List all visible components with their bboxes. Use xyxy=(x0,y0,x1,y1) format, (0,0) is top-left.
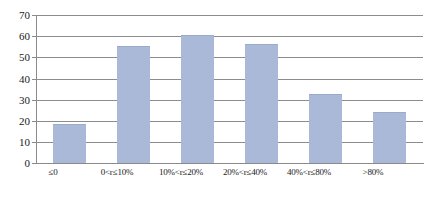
y-axis-label-70: 70 xyxy=(0,10,30,21)
x-axis-label-3: 20%<r≤40% xyxy=(210,168,280,178)
bar-0[interactable] xyxy=(53,124,86,163)
y-axis-label-40: 40 xyxy=(0,74,30,85)
x-axis-label-4: 40%<r≤80% xyxy=(274,168,344,178)
bar-4[interactable] xyxy=(309,94,342,163)
bar-1[interactable] xyxy=(117,46,150,163)
bar-chart: 70 60 50 40 30 20 10 0 ≤0 0<r≤10% 10%<r≤… xyxy=(0,0,436,199)
x-axis-label-0: ≤0 xyxy=(18,168,88,178)
y-axis-label-60: 60 xyxy=(0,31,30,42)
bar-3[interactable] xyxy=(245,44,278,164)
x-axis-label-5: >80% xyxy=(338,168,408,178)
x-axis-label-1: 0<r≤10% xyxy=(82,168,152,178)
x-axis-labels: ≤0 0<r≤10% 10%<r≤20% 20%<r≤40% 40%<r≤80%… xyxy=(0,168,436,192)
x-axis-label-2: 10%<r≤20% xyxy=(146,168,216,178)
bar-2[interactable] xyxy=(181,35,214,163)
y-axis-label-20: 20 xyxy=(0,116,30,127)
y-axis-label-30: 30 xyxy=(0,95,30,106)
y-axis-label-10: 10 xyxy=(0,137,30,148)
bar-5[interactable] xyxy=(373,112,406,163)
bars-layer xyxy=(36,15,423,163)
y-axis-label-50: 50 xyxy=(0,52,30,63)
